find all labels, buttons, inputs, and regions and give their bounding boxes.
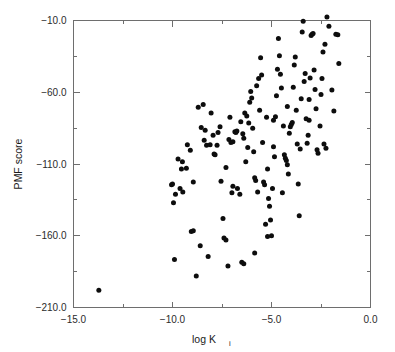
data-point <box>247 100 252 105</box>
data-point <box>323 146 328 151</box>
data-point <box>198 243 203 248</box>
data-point <box>185 142 190 147</box>
data-point <box>188 148 193 153</box>
data-point <box>335 32 340 37</box>
data-point <box>241 136 246 141</box>
data-point <box>229 190 234 195</box>
svg-text:log K: log K <box>192 333 216 345</box>
data-point <box>218 124 223 129</box>
data-point <box>180 189 185 194</box>
data-point <box>245 145 250 150</box>
y-axis-title: PMF score <box>12 138 24 189</box>
data-point <box>275 67 280 72</box>
data-point <box>299 96 304 101</box>
data-point <box>180 159 185 164</box>
svg-text:PMF score: PMF score <box>12 138 24 189</box>
data-point <box>326 24 331 29</box>
data-point <box>301 19 306 24</box>
data-point <box>223 238 228 243</box>
data-point <box>249 95 254 100</box>
data-point <box>292 62 297 67</box>
x-tick-label: −15.0 <box>61 314 87 325</box>
data-point <box>295 141 300 146</box>
data-point <box>314 106 319 111</box>
data-point <box>172 257 177 262</box>
data-point <box>191 179 196 184</box>
data-point <box>306 133 311 138</box>
y-tick-label: −210.0 <box>36 302 67 313</box>
data-point <box>271 118 276 123</box>
data-point <box>285 162 290 167</box>
data-point <box>303 71 308 76</box>
data-point <box>259 73 264 78</box>
data-point <box>260 140 265 145</box>
data-point <box>297 213 302 218</box>
data-point <box>320 50 325 55</box>
data-point <box>201 102 206 107</box>
x-tick-label: 0.0 <box>364 314 378 325</box>
data-point <box>240 131 245 136</box>
data-point <box>286 172 291 177</box>
y-tick-label: −160.0 <box>36 230 67 241</box>
data-point <box>312 68 317 73</box>
data-point <box>257 108 262 113</box>
data-point <box>173 192 178 197</box>
data-point <box>319 92 324 97</box>
data-point <box>324 14 329 19</box>
data-point <box>244 113 249 118</box>
data-point <box>251 149 256 154</box>
data-point <box>219 179 224 184</box>
data-point <box>280 190 285 195</box>
data-point <box>250 126 255 131</box>
data-point <box>287 131 292 136</box>
data-point <box>202 138 207 143</box>
data-point <box>322 42 327 47</box>
data-point <box>266 196 271 201</box>
x-tick-label: −10.0 <box>160 314 186 325</box>
data-point <box>307 97 312 102</box>
data-point <box>254 83 259 88</box>
data-point <box>246 121 251 126</box>
data-point <box>294 108 299 113</box>
data-point <box>264 115 269 120</box>
data-point <box>291 85 296 90</box>
data-point <box>300 29 305 34</box>
data-point <box>321 141 326 146</box>
data-point <box>227 115 232 120</box>
data-point <box>271 144 276 149</box>
data-point <box>206 254 211 259</box>
data-point <box>171 200 176 205</box>
data-point <box>336 61 341 66</box>
data-point <box>270 186 275 191</box>
data-point <box>267 204 272 209</box>
data-point <box>223 165 228 170</box>
data-point <box>278 72 283 77</box>
data-point <box>252 250 257 255</box>
data-point <box>216 130 221 135</box>
data-point <box>265 167 270 172</box>
data-point <box>225 263 230 268</box>
data-point <box>281 123 286 128</box>
data-point <box>279 85 284 90</box>
data-point <box>234 129 239 134</box>
data-point <box>296 182 301 187</box>
data-point <box>241 261 246 266</box>
data-point <box>316 151 321 156</box>
data-point <box>277 53 282 58</box>
data-point <box>313 87 318 92</box>
data-point <box>318 123 323 128</box>
data-point <box>268 217 273 222</box>
data-point <box>208 142 213 147</box>
data-point <box>230 139 235 144</box>
data-point <box>96 288 101 293</box>
data-point <box>176 156 181 161</box>
data-point <box>237 192 242 197</box>
data-point <box>213 152 218 157</box>
data-point <box>196 105 201 110</box>
data-point <box>331 108 336 113</box>
scatter-plot-figure: −15.0−10.0−5.00.0 −10.0−60.0−110.0−160.0… <box>0 0 395 352</box>
figure-background <box>0 0 395 352</box>
data-point <box>284 158 289 163</box>
data-point <box>238 119 243 124</box>
data-point <box>220 216 225 221</box>
